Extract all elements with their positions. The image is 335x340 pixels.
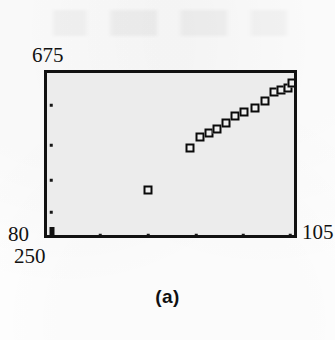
figure-caption: (a) [0, 286, 335, 308]
data-point-marker [288, 79, 295, 88]
y-axis-tick-dot [50, 144, 53, 147]
x-axis-max-label: 105 [302, 222, 334, 243]
y-axis-tick-dot [50, 179, 53, 182]
data-point-marker [240, 108, 249, 117]
data-point-marker [251, 104, 260, 113]
scatter-plot-figure: 675 80 250 105 (a) [0, 0, 335, 340]
y-axis-tick-dot [50, 211, 53, 214]
plot-area [47, 73, 294, 235]
data-point-marker [231, 112, 240, 121]
x-axis-min-label: 250 [14, 246, 46, 267]
data-point-marker [196, 133, 205, 142]
data-point-marker [261, 97, 270, 106]
x-axis-tick-dot [195, 234, 198, 235]
page-bleedthrough-text [40, 10, 300, 36]
y-axis-max-label: 675 [32, 45, 64, 66]
data-point-marker [186, 144, 195, 153]
y-axis-min-label: 80 [8, 224, 29, 245]
data-point-marker [213, 125, 222, 134]
axis-corner-smudge [50, 227, 55, 235]
plot-frame [44, 70, 297, 238]
data-point-marker [222, 119, 231, 128]
y-axis-tick-dot [50, 104, 53, 107]
x-axis-tick-dot [289, 234, 292, 235]
x-axis-tick-dot [242, 234, 245, 235]
x-axis-tick-dot [147, 234, 150, 235]
data-point-marker [144, 186, 153, 195]
x-axis-tick-dot [99, 234, 102, 235]
